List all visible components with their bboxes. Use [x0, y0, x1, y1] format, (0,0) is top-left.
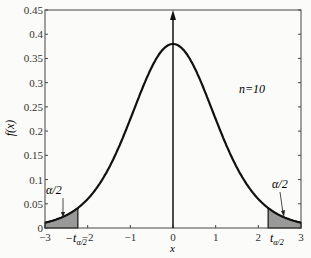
svg-text:0.35: 0.35 [24, 52, 44, 64]
svg-text:3: 3 [298, 231, 304, 243]
svg-text:−1: −1 [124, 231, 136, 243]
svg-text:2: 2 [256, 231, 262, 243]
svg-text:0.3: 0.3 [29, 77, 43, 89]
t-right-label: tα/2 [270, 231, 284, 247]
alpha-left-label: α/2 [46, 183, 62, 197]
n-label: n=10 [239, 82, 265, 96]
svg-text:0.05: 0.05 [24, 198, 44, 210]
svg-text:1: 1 [213, 231, 219, 243]
svg-text:0.15: 0.15 [24, 149, 44, 161]
alpha-right-label: α/2 [272, 177, 288, 191]
alpha-right-pointer [280, 192, 283, 213]
arrow-head-icon [170, 10, 176, 20]
y-axis-label: f(x) [3, 120, 17, 137]
x-axis-label: x [169, 242, 175, 254]
svg-text:0.1: 0.1 [29, 174, 43, 186]
svg-text:0.25: 0.25 [24, 101, 44, 113]
svg-text:0.4: 0.4 [29, 28, 43, 40]
svg-text:−3: −3 [39, 231, 51, 243]
svg-text:0.2: 0.2 [29, 125, 43, 137]
svg-text:0.45: 0.45 [24, 4, 44, 16]
t-distribution-chart: 00.050.10.150.20.250.30.350.40.45 −3−2−1… [0, 0, 311, 258]
